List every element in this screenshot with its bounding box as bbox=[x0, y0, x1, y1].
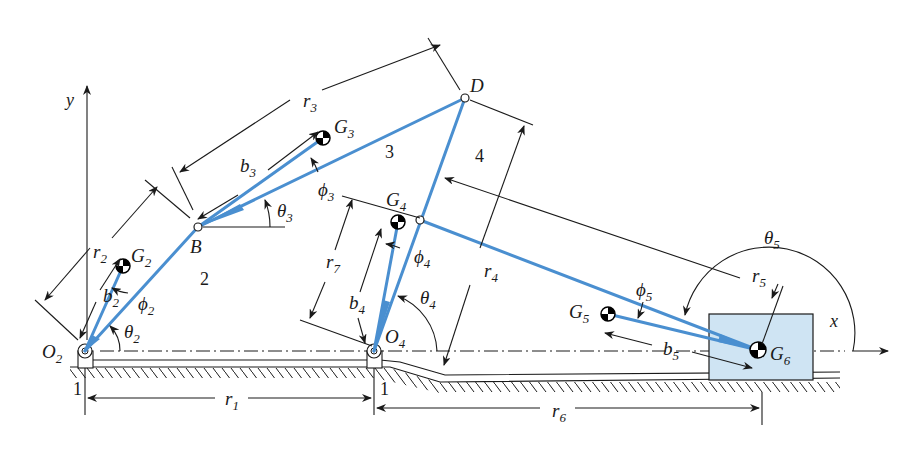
label-G5: G5 bbox=[569, 301, 590, 326]
svg-text:r4: r4 bbox=[484, 260, 498, 285]
svg-text:θ5: θ5 bbox=[764, 227, 780, 252]
svg-text:b5: b5 bbox=[663, 338, 680, 363]
label-D: D bbox=[469, 75, 484, 96]
svg-text:r3: r3 bbox=[303, 90, 317, 115]
label-O2: O2 bbox=[42, 341, 63, 366]
svg-text:ϕ4: ϕ4 bbox=[414, 246, 431, 271]
label-G2: G2 bbox=[131, 245, 152, 270]
y-axis: y bbox=[64, 86, 87, 340]
svg-text:x: x bbox=[829, 311, 838, 331]
svg-text:ϕ5: ϕ5 bbox=[636, 279, 653, 304]
label-B: B bbox=[190, 236, 202, 257]
svg-text:θ4: θ4 bbox=[420, 287, 436, 312]
label-G3: G3 bbox=[334, 116, 355, 141]
svg-text:y: y bbox=[64, 90, 74, 110]
mass-center-G4-icon bbox=[391, 215, 405, 229]
joint-D bbox=[461, 94, 469, 102]
svg-text:3: 3 bbox=[385, 142, 394, 162]
mass-center-G3-icon bbox=[316, 131, 330, 145]
svg-text:θ2: θ2 bbox=[124, 321, 140, 346]
svg-text:4: 4 bbox=[475, 146, 484, 166]
svg-text:r7: r7 bbox=[326, 251, 340, 276]
svg-text:θ3: θ3 bbox=[277, 200, 293, 225]
mass-center-G5-icon bbox=[601, 307, 615, 321]
x-axis: x bbox=[829, 311, 888, 351]
svg-text:r2: r2 bbox=[93, 241, 107, 266]
svg-text:b3: b3 bbox=[240, 155, 257, 180]
link-5 bbox=[420, 220, 758, 350]
mass-center-G6-icon bbox=[750, 342, 766, 358]
svg-text:1: 1 bbox=[380, 379, 389, 399]
svg-text:2: 2 bbox=[200, 269, 209, 289]
svg-text:r6: r6 bbox=[552, 400, 566, 425]
svg-text:ϕ3: ϕ3 bbox=[318, 179, 335, 204]
svg-text:r1: r1 bbox=[225, 388, 239, 413]
svg-text:ϕ2: ϕ2 bbox=[138, 293, 155, 318]
mechanism-diagram: y x bbox=[0, 0, 924, 465]
svg-text:r5: r5 bbox=[752, 265, 766, 290]
svg-text:b4: b4 bbox=[349, 292, 366, 317]
joint-B bbox=[194, 223, 202, 231]
label-O4: O4 bbox=[385, 326, 406, 351]
svg-text:1: 1 bbox=[73, 379, 82, 399]
label-G4: G4 bbox=[386, 189, 407, 214]
